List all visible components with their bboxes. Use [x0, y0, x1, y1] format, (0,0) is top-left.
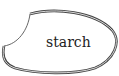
notch-edge [4, 14, 30, 46]
starch-label: starch [46, 34, 91, 50]
